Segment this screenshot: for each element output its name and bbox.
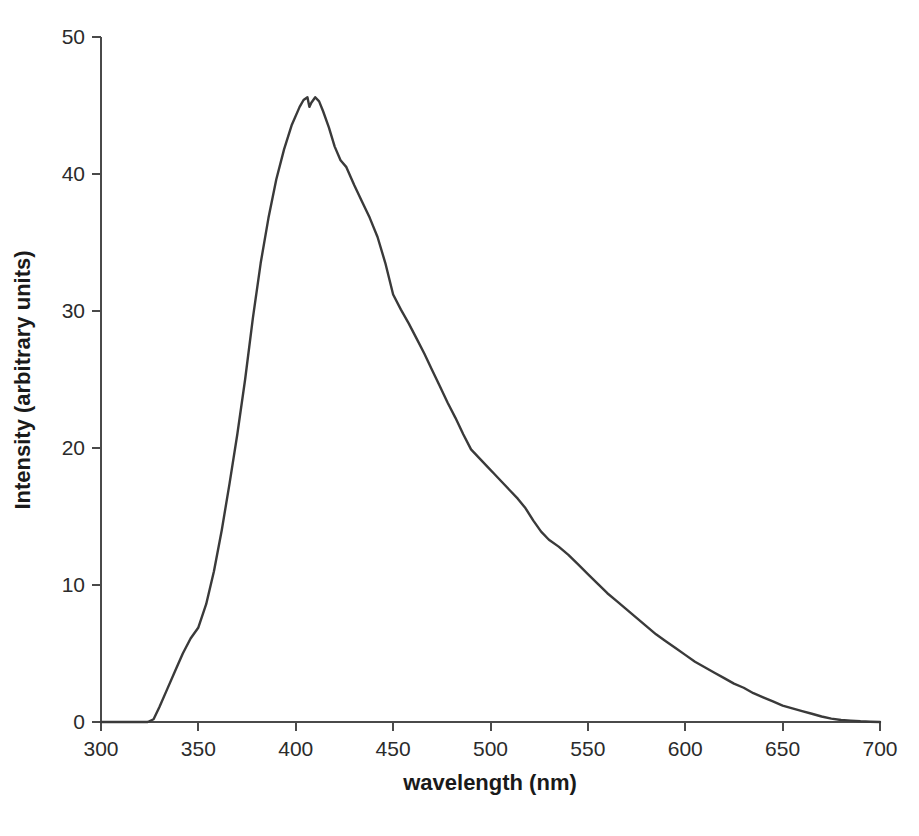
data-series-group	[101, 97, 880, 722]
x-axis-ticks	[101, 722, 880, 731]
y-tick-label-10: 10	[62, 573, 85, 596]
y-tick-label-50: 50	[62, 25, 85, 48]
axes	[101, 37, 880, 722]
x-tick-label-450: 450	[376, 737, 411, 760]
y-axis-ticks	[92, 37, 101, 722]
x-tick-label-600: 600	[668, 737, 703, 760]
y-tick-label-0: 0	[73, 710, 85, 733]
x-tick-label-300: 300	[83, 737, 118, 760]
y-axis-tick-labels: 01020304050	[62, 25, 85, 733]
spectrum-figure: 01020304050 300350400450500550600650700 …	[0, 0, 919, 836]
chart-canvas: 01020304050 300350400450500550600650700 …	[0, 0, 919, 836]
x-tick-label-550: 550	[570, 737, 605, 760]
x-axis-title: wavelength (nm)	[402, 770, 577, 795]
x-tick-label-350: 350	[181, 737, 216, 760]
y-axis-title: Intensity (arbitrary units)	[10, 250, 35, 509]
y-tick-label-40: 40	[62, 162, 85, 185]
x-tick-label-400: 400	[278, 737, 313, 760]
x-axis-tick-labels: 300350400450500550600650700	[83, 737, 897, 760]
x-tick-label-500: 500	[473, 737, 508, 760]
y-tick-label-30: 30	[62, 299, 85, 322]
emission-spectrum-curve	[101, 97, 880, 722]
x-tick-label-700: 700	[862, 737, 897, 760]
y-tick-label-20: 20	[62, 436, 85, 459]
x-tick-label-650: 650	[765, 737, 800, 760]
